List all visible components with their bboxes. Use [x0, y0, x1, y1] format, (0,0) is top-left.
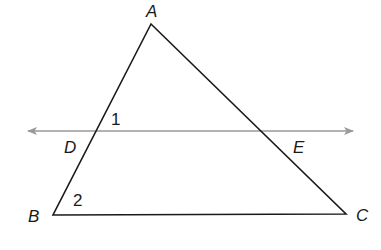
triangle-abc [53, 24, 346, 215]
vertex-label-a: A [145, 2, 157, 21]
diagram-canvas: A B C D E 1 2 [0, 0, 381, 250]
point-label-e: E [293, 138, 305, 157]
vertex-label-b: B [28, 207, 39, 226]
angle-label-2: 2 [73, 191, 82, 210]
angle-label-1: 1 [111, 110, 120, 129]
vertex-label-c: C [356, 206, 369, 225]
point-label-d: D [64, 138, 76, 157]
